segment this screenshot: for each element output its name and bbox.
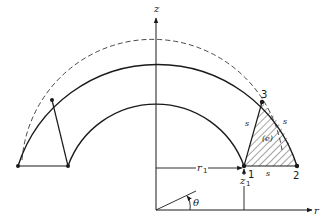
side-label-arc: s: [283, 117, 287, 126]
r-axis-label: r: [314, 205, 320, 216]
theta-arc-arrow: [187, 196, 190, 210]
side-label-bottom: s: [266, 169, 270, 178]
node-2: [295, 164, 299, 168]
side-label-left: s: [245, 119, 249, 128]
triangular-element-e: 1 2 3 (e) s s s: [240, 89, 302, 181]
left-node-c: [66, 164, 70, 168]
axisymmetric-element-diagram: z r θ 1 2 3 (e) s s s: [0, 0, 332, 222]
coordinate-axes: z r: [153, 3, 320, 216]
left-element: [16, 98, 70, 168]
z1-label: z: [239, 175, 246, 186]
node-3-label: 3: [261, 89, 267, 100]
node-1: [242, 164, 246, 168]
left-edge-diagonal: [52, 100, 68, 166]
z-axis-label: z: [153, 3, 160, 14]
element-label: (e): [262, 134, 273, 143]
r1-subscript: 1: [203, 167, 207, 175]
node-2-label: 2: [293, 170, 299, 181]
z1-subscript: 1: [246, 180, 250, 188]
left-node-a: [16, 164, 20, 168]
theta-label: θ: [193, 197, 199, 208]
left-node-b: [50, 98, 54, 102]
node-3: [260, 100, 264, 104]
mid-dashed-arc: [22, 39, 282, 160]
r1-dimension: r 1: [156, 162, 242, 175]
theta-indicator: θ: [156, 191, 199, 210]
node-1-label: 1: [248, 169, 254, 180]
